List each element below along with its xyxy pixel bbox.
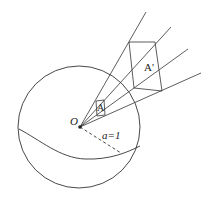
great-circle-curve bbox=[19, 129, 140, 159]
label-patch-a: A bbox=[97, 103, 104, 113]
origin-point bbox=[78, 125, 82, 129]
diagram-canvas: O A A' a=1 bbox=[0, 0, 213, 199]
label-origin: O bbox=[70, 116, 78, 127]
label-patch-a-prime: A' bbox=[144, 62, 154, 73]
label-radius: a=1 bbox=[102, 130, 120, 141]
sphere-projection-diagram bbox=[0, 0, 213, 199]
